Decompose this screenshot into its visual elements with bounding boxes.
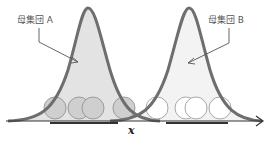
x-axis-label: x bbox=[128, 124, 135, 137]
samples-b bbox=[146, 97, 231, 119]
population-b-label: 母集団 B bbox=[208, 13, 244, 26]
population-a-label: 母集団 A bbox=[17, 13, 53, 26]
